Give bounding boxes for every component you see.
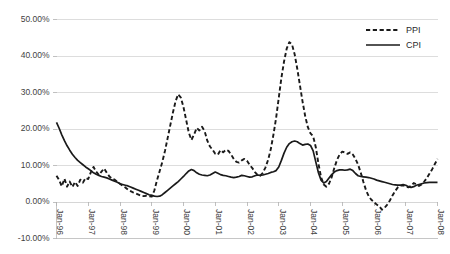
data-series: [57, 42, 438, 210]
legend-label-cpi: CPI: [406, 40, 421, 50]
x-axis-label-6: Jan-02: [246, 209, 256, 235]
y-axis-label-0: -10.00%: [18, 233, 50, 243]
y-axis-label-4: 30.00%: [21, 87, 50, 97]
series-line-ppi: [57, 42, 438, 210]
x-axis-label-12: Jan-08: [436, 209, 446, 235]
x-axis-label-11: Jan-07: [405, 209, 415, 235]
chart-legend: PPICPI: [357, 20, 437, 55]
x-axis-label-10: Jan-06: [373, 209, 383, 235]
series-line-cpi: [57, 122, 438, 196]
y-axis-label-3: 20.00%: [21, 123, 50, 133]
y-axis-label-1: 0.00%: [25, 196, 50, 206]
x-axis-label-3: Jan-99: [151, 209, 161, 235]
y-axis-label-2: 10.00%: [21, 160, 50, 170]
x-axis-labels: Jan-96Jan-97Jan-98Jan-99Jan-00Jan-01Jan-…: [55, 209, 446, 235]
x-axis-label-9: Jan-05: [341, 209, 351, 235]
x-axis-label-4: Jan-00: [182, 209, 192, 235]
legend-background: [357, 20, 437, 55]
x-axis-label-0: Jan-96: [55, 209, 65, 235]
x-axis-label-7: Jan-03: [278, 209, 288, 235]
y-axis-label-6: 50.00%: [21, 14, 50, 24]
x-axis-label-8: Jan-04: [309, 209, 319, 235]
x-axis-label-1: Jan-97: [87, 209, 97, 235]
x-axis-label-5: Jan-01: [214, 209, 224, 235]
legend-label-ppi: PPI: [406, 25, 421, 35]
chart-container: -10.00%0.00%10.00%20.00%30.00%40.00%50.0…: [0, 0, 450, 254]
y-axis-label-5: 40.00%: [21, 50, 50, 60]
y-axis-labels: -10.00%0.00%10.00%20.00%30.00%40.00%50.0…: [18, 14, 50, 243]
line-chart: -10.00%0.00%10.00%20.00%30.00%40.00%50.0…: [0, 0, 450, 254]
x-axis-label-2: Jan-98: [119, 209, 129, 235]
